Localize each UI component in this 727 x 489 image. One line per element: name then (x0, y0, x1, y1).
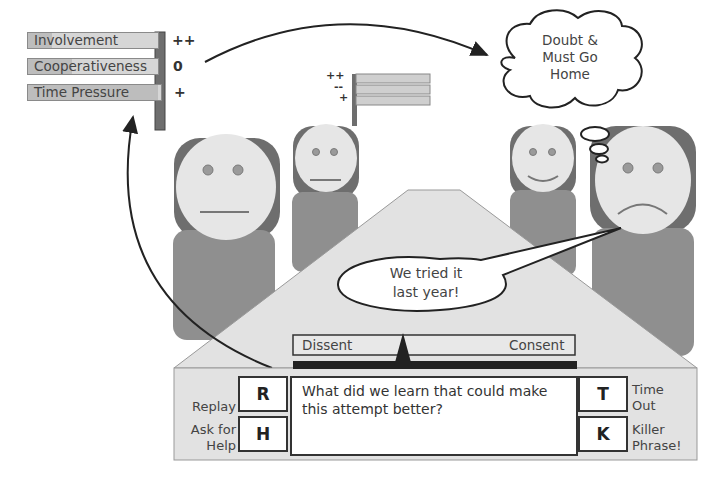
arrow-meter-to-thought (205, 24, 487, 62)
meter-sign-cooperativeness: 0 (173, 58, 183, 74)
question-prompt-box: What did we learn that could make this a… (290, 376, 578, 456)
speech-bubble-text: We tried it last year! (370, 264, 482, 302)
key-label-replay: Replay (182, 399, 236, 415)
killer-phrase-key-button[interactable]: K (578, 416, 628, 452)
key-label-killer-phrase: Killer Phrase! (632, 422, 681, 454)
time-out-key-button[interactable]: T (578, 376, 628, 412)
meter-row-involvement: Involvement (27, 32, 159, 49)
meter-row-time-pressure: Time Pressure (27, 84, 162, 101)
scale-label-consent: Consent (509, 337, 564, 353)
help-key-button[interactable]: H (238, 416, 288, 452)
small-meter-sign-3: + (339, 92, 348, 103)
scale-label-dissent: Dissent (302, 337, 352, 353)
meter-sign-time-pressure: + (174, 84, 186, 100)
meter-row-cooperativeness: Cooperativeness (27, 58, 159, 75)
replay-key-button[interactable]: R (238, 376, 288, 412)
key-label-time-out: Time Out (632, 382, 664, 414)
key-label-ask-for-help: Ask for Help (182, 422, 236, 454)
thought-bubble-text: Doubt & Must Go Home (520, 32, 620, 83)
meter-sign-involvement: ++ (172, 32, 195, 48)
